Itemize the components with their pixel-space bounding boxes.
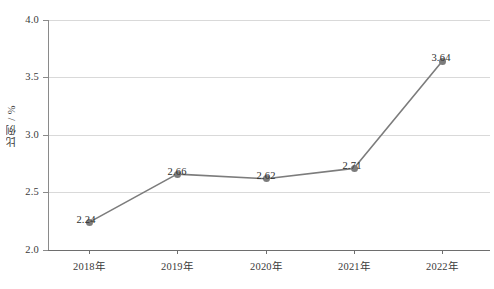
y-tick-label-3.5: 3.5	[0, 71, 39, 82]
y-tick-label-4.0: 4.0	[0, 14, 39, 25]
data-label-2020: 2.62	[236, 170, 296, 181]
data-label-2021: 2.71	[322, 160, 382, 171]
x-tick-mark-2018	[89, 250, 90, 254]
y-tick-label-2.5: 2.5	[0, 186, 39, 197]
x-tick-label-2019: 2019年	[137, 258, 217, 273]
x-tick-mark-2022	[442, 250, 443, 254]
x-tick-label-2020: 2020年	[226, 258, 306, 273]
line-chart: 4.0 3.5 3.0 2.5 2.0 比例 / % 2018年 2019年 2…	[0, 0, 494, 289]
y-axis-title: 比例 / %	[4, 105, 19, 147]
x-tick-mark-2019	[177, 250, 178, 254]
x-tick-label-2018: 2018年	[49, 258, 129, 273]
y-tick-label-2.0: 2.0	[0, 244, 39, 255]
data-label-2018: 2.24	[56, 214, 116, 225]
data-label-2019: 2.66	[147, 166, 207, 177]
y-tick-mark-3.5	[43, 77, 48, 78]
x-axis-line	[48, 250, 490, 251]
gridline-3.5	[48, 77, 490, 78]
y-tick-mark-2.0	[43, 250, 48, 251]
y-tick-mark-2.5	[43, 192, 48, 193]
y-tick-mark-3.0	[43, 135, 48, 136]
x-tick-mark-2020	[266, 250, 267, 254]
x-tick-mark-2021	[354, 250, 355, 254]
y-axis-line	[48, 20, 49, 251]
gridline-4.0	[48, 20, 490, 21]
x-tick-label-2022: 2022年	[402, 258, 482, 273]
y-tick-mark-4.0	[43, 20, 48, 21]
x-tick-label-2021: 2021年	[314, 258, 394, 273]
gridline-3.0	[48, 135, 490, 136]
data-label-2022: 3.64	[411, 52, 471, 63]
gridline-2.5	[48, 192, 490, 193]
